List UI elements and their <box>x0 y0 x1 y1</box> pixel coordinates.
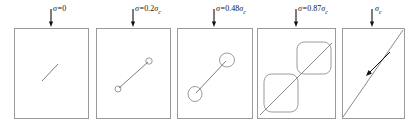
sigma-critical-subscript: c <box>243 9 246 15</box>
stress-value: 0.48 <box>225 4 239 13</box>
stage-stress-label: σ=0.87σc <box>298 5 328 15</box>
stress-value: 0.2 <box>144 4 154 13</box>
stress-value: 0 <box>62 4 66 13</box>
stage-stress-label: σ=0 <box>53 5 66 13</box>
load-arrow-head <box>212 22 216 28</box>
sigma-symbol: σ= <box>135 4 144 13</box>
sigma-critical-subscript: c <box>158 9 161 15</box>
load-arrow-head <box>49 22 53 28</box>
stage-stress-label: σ=0.48σc <box>216 5 246 15</box>
load-arrow-head <box>370 22 374 28</box>
figure-canvas <box>0 0 411 123</box>
load-arrow-head <box>294 22 298 28</box>
sigma-symbol: σ= <box>216 4 225 13</box>
sigma-symbol: σ= <box>298 4 307 13</box>
sigma-critical-subscript: c <box>379 9 382 15</box>
stress-value: 0.87 <box>307 4 321 13</box>
specimen-box <box>15 29 89 119</box>
sigma-critical-subscript: c <box>325 9 328 15</box>
sigma-symbol: σ= <box>53 4 62 13</box>
stage-4 <box>258 9 336 119</box>
stage-3 <box>178 9 253 119</box>
specimen-box <box>178 29 253 119</box>
stage-stress-label: σ=0.2σc <box>135 5 161 15</box>
stage-5 <box>343 9 405 119</box>
stage-stress-label: σc <box>375 5 382 15</box>
load-arrow-head <box>131 22 135 28</box>
crack-evolution-figure: σ=0σ=0.2σcσ=0.48σcσ=0.87σcσc <box>0 0 411 123</box>
stage-1 <box>15 9 89 119</box>
stage-2 <box>97 9 171 119</box>
specimen-box <box>97 29 171 119</box>
